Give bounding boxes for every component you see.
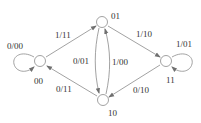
state-node-10 bbox=[98, 95, 109, 106]
state-label-10: 10 bbox=[108, 108, 118, 118]
edge-01-to-10 bbox=[95, 28, 99, 93]
edge-10-to-01 bbox=[105, 29, 110, 94]
state-node-00 bbox=[35, 56, 46, 67]
transition-label-1-00: 1/00 bbox=[112, 57, 129, 67]
transition-label-1-01: 1/01 bbox=[176, 39, 192, 49]
state-node-01 bbox=[97, 17, 108, 28]
edge-10-to-00 bbox=[47, 66, 97, 96]
transition-label-0-10: 0/10 bbox=[133, 85, 150, 95]
transition-label-0-00: 0/00 bbox=[7, 41, 24, 51]
state-label-00: 00 bbox=[34, 76, 44, 86]
state-diagram: 00 01 10 11 0/00 1/11 0/01 1/00 1/10 1/0… bbox=[0, 0, 201, 123]
self-loop-11 bbox=[172, 54, 192, 71]
state-label-01: 01 bbox=[111, 11, 120, 21]
transition-label-1-10: 1/10 bbox=[136, 29, 153, 39]
transition-label-0-11: 0/11 bbox=[56, 84, 72, 94]
self-loop-00 bbox=[14, 54, 34, 71]
state-label-11: 11 bbox=[166, 75, 175, 85]
state-node-11 bbox=[161, 56, 172, 67]
edge-01-to-11 bbox=[108, 26, 160, 57]
transition-label-0-01: 0/01 bbox=[73, 56, 89, 66]
transition-label-1-11: 1/11 bbox=[55, 30, 71, 40]
edge-00-to-01 bbox=[46, 26, 96, 57]
